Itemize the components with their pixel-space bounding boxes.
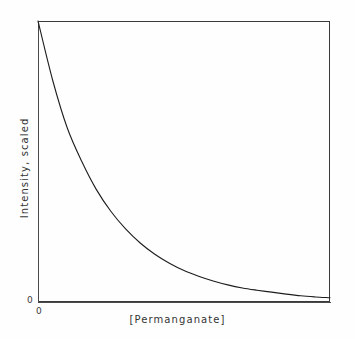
- decay-curve-path: [38, 21, 330, 298]
- x-axis-title: [Permanganate]: [0, 314, 355, 325]
- x-axis-line: [38, 302, 331, 303]
- y-axis-title: Intensity, scaled: [19, 118, 30, 219]
- y-axis-origin-label: 0: [27, 296, 33, 305]
- figure-canvas: 0 0 [Permanganate] Intensity, scaled: [0, 0, 355, 339]
- decay-curve-plot: [38, 21, 330, 302]
